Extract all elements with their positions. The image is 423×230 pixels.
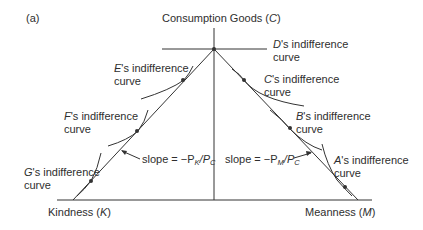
x-right-label-close: ) — [372, 206, 376, 218]
b-point — [288, 126, 292, 130]
d-point — [212, 47, 216, 51]
slope-left-sub2: C — [210, 158, 215, 167]
b-curve-label: B's indifferencecurve — [296, 110, 371, 136]
e-curve-label: E's indifferencecurve — [114, 62, 189, 88]
c-point — [242, 78, 246, 82]
slope-right-prefix: slope = −P — [225, 153, 278, 165]
person-d: D — [273, 38, 281, 50]
f-label-line2: curve — [64, 123, 91, 135]
slope-left-label: slope = −PK/PC — [142, 153, 215, 169]
a-label-line1: 's indifference — [341, 154, 408, 166]
arrowhead-right-icon — [306, 151, 312, 156]
person-c: C — [264, 73, 272, 85]
g-curve-label: G's indifferencecurve — [24, 166, 100, 192]
person-f: F — [64, 110, 71, 122]
b-label-line1: 's indifference — [303, 110, 370, 122]
y-axis-label-close: ) — [277, 12, 281, 24]
a-label-line2: curve — [334, 167, 361, 179]
g-label-line2: curve — [24, 179, 51, 191]
d-label-line2: curve — [273, 51, 300, 63]
f-label-line1: 's indifference — [71, 110, 138, 122]
slope-right-mid: /P — [284, 153, 294, 165]
x-right-variable: M — [362, 206, 371, 218]
x-axis-right-label: Meanness (M) — [305, 206, 375, 219]
c-label-line1: 's indifference — [272, 73, 339, 85]
slope-right-sub2: C — [294, 158, 299, 167]
indifference-curve-diagram: (a) Consumption Goods (C) Kindness (K) M… — [0, 0, 423, 230]
g-label-line1: 's indifference — [33, 166, 100, 178]
c-label-line2: curve — [264, 86, 291, 98]
a-curve-label: A's indifferencecurve — [334, 154, 409, 180]
person-g: G — [24, 166, 33, 178]
x-left-label-close: ) — [107, 206, 111, 218]
slope-left-prefix: slope = −P — [142, 153, 195, 165]
x-left-label-text: Kindness ( — [48, 206, 100, 218]
e-label-line1: 's indifference — [121, 62, 188, 74]
slope-right-label: slope = −PM/PC — [225, 153, 300, 169]
c-curve-label: C's indifferencecurve — [264, 73, 339, 99]
d-curve-label: D's indifferencecurve — [273, 38, 348, 64]
y-axis-label-text: Consumption Goods ( — [162, 12, 269, 24]
a-point — [343, 185, 347, 189]
slope-left-mid: /P — [200, 153, 210, 165]
x-axis-left-label: Kindness (K) — [48, 206, 111, 219]
y-axis-label: Consumption Goods (C) — [162, 12, 281, 25]
e-label-line2: curve — [114, 75, 141, 87]
x-right-label-text: Meanness ( — [305, 206, 362, 218]
panel-label: (a) — [26, 12, 39, 25]
f-curve-label: F's indifferencecurve — [64, 110, 138, 136]
d-label-line1: 's indifference — [281, 38, 348, 50]
y-axis-variable: C — [269, 12, 277, 24]
b-label-line2: curve — [296, 123, 323, 135]
arrowhead-left-icon — [121, 150, 127, 155]
